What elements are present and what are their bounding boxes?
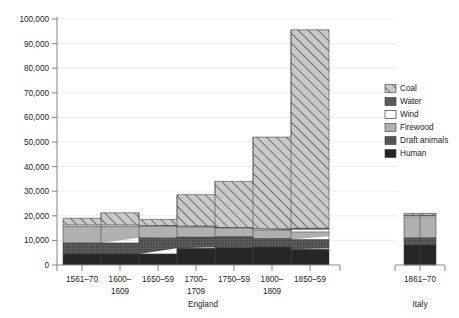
legend-item-coal[interactable]: Coal [385, 84, 417, 93]
xtick-label-1650-59: 1650–59 [142, 275, 174, 284]
legend-label-water: Water [400, 97, 422, 106]
ytick-label-90000: 90,000 [24, 40, 49, 49]
firewood-swatch [385, 124, 396, 132]
xtick-label-1700-1709: 1700– [185, 275, 208, 284]
coal-swatch [385, 85, 396, 93]
ytick-label-40000: 40,000 [24, 163, 49, 172]
ytick-label-0: 0 [44, 261, 49, 270]
legend-item-water[interactable]: Water [385, 97, 422, 106]
xtick-label-1850-59: 1850–59 [294, 275, 326, 284]
chart-background [0, 0, 459, 318]
ytick-label-20000: 20,000 [24, 212, 49, 221]
ytick-label-70000: 70,000 [24, 89, 49, 98]
ytick-label-80000: 80,000 [24, 64, 49, 73]
xtick-label-1861-70: 1861–70 [404, 275, 436, 284]
italy-stacked-bar [404, 213, 436, 265]
ytick-label-50000: 50,000 [24, 138, 49, 147]
xtick-label-1800-1809-line2: 1809 [263, 287, 282, 296]
energy-consumption-chart: 100,000 90,000 80,000 70,000 60,000 50,0… [0, 0, 459, 318]
xaxis-title-italy: Italy [412, 300, 428, 309]
xtick-label-1700-1709-line2: 1709 [187, 287, 206, 296]
xtick-label-1800-1809: 1800– [261, 275, 284, 284]
legend-label-coal: Coal [400, 84, 417, 93]
ytick-label-60000: 60,000 [24, 113, 49, 122]
legend-label-firewood: Firewood [400, 123, 434, 132]
legend-item-wind[interactable]: Wind [385, 110, 419, 119]
ytick-label-100000: 100,000 [19, 15, 49, 24]
xaxis-title-england: England [188, 300, 218, 309]
legend-label-human: Human [400, 149, 427, 158]
chart-svg: 100,000 90,000 80,000 70,000 60,000 50,0… [0, 0, 459, 318]
ytick-label-10000: 10,000 [24, 236, 49, 245]
legend-label-draft-animals: Draft animals [400, 136, 448, 145]
legend-item-human[interactable]: Human [385, 149, 427, 158]
water-swatch [385, 98, 396, 106]
xtick-label-1750-59: 1750–59 [218, 275, 250, 284]
xtick-label-1600-1609-line2: 1609 [111, 287, 130, 296]
legend-item-firewood[interactable]: Firewood [385, 123, 434, 132]
xtick-label-1600-1609: 1600– [109, 275, 132, 284]
wind-swatch [385, 111, 396, 119]
legend-label-wind: Wind [400, 110, 419, 119]
human-swatch [385, 150, 396, 158]
draft-animals-swatch [385, 137, 396, 145]
ytick-label-30000: 30,000 [24, 187, 49, 196]
xtick-label-1561-70: 1561–70 [66, 275, 98, 284]
legend-item-draft-animals[interactable]: Draft animals [385, 136, 448, 145]
